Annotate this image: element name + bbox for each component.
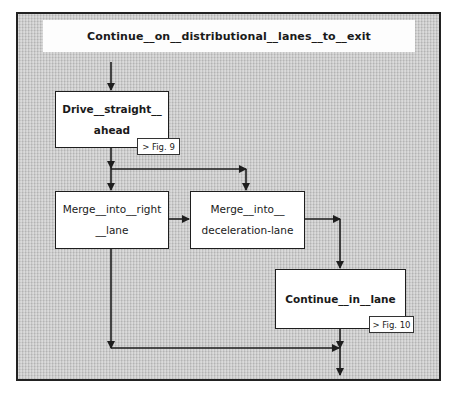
node-label-line1: Merge__into__ (211, 199, 285, 220)
fig-9-reference: > Fig. 9 (137, 138, 180, 155)
node-label-line1: Merge__into__right (63, 199, 162, 220)
node-label-line2: deceleration-lane (202, 220, 294, 241)
fig-10-reference: > Fig. 10 (369, 316, 414, 333)
node-label-line2: __lane (96, 220, 129, 241)
node-merge-into-right-lane: Merge__into__right __lane (55, 191, 169, 249)
node-label-line2: ahead (94, 120, 130, 141)
node-merge-into-deceleration-lane: Merge__into__ deceleration-lane (190, 191, 305, 249)
node-label-line1: Continue__in__lane (285, 289, 395, 310)
node-label-line1: Drive__straight__ (62, 99, 162, 120)
